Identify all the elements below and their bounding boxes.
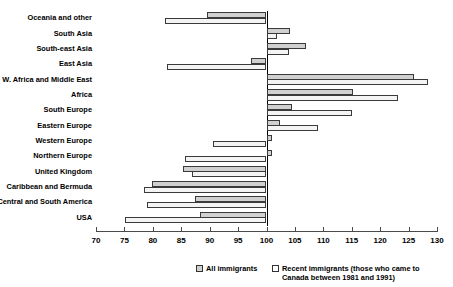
category-label: Oceania and other — [28, 14, 92, 22]
category-label: Caribbean and Bermuda — [7, 183, 92, 191]
x-tick — [352, 227, 353, 232]
x-tick-label: 110 — [308, 236, 338, 245]
category-label: Northern Europe — [33, 152, 92, 160]
bar-recent-immigrants — [267, 95, 399, 101]
x-tick — [181, 227, 182, 232]
category-label: East Asia — [59, 60, 92, 68]
x-tick-label: 70 — [81, 236, 111, 245]
x-tick — [124, 227, 125, 232]
legend-item-all-immigrants: All immigrants — [196, 264, 257, 273]
category-label: South Asia — [54, 30, 92, 38]
bar-recent-immigrants — [167, 64, 266, 70]
category-axis-labels: Oceania and otherSouth AsiaSouth-east As… — [0, 11, 92, 226]
x-tick-label: 100 — [252, 236, 282, 245]
bar-recent-immigrants — [267, 110, 353, 116]
x-tick — [210, 227, 211, 232]
chart-legend: All immigrants Recent immigrants (those … — [0, 262, 453, 287]
category-label: Africa — [71, 91, 92, 99]
x-tick-label: 130 — [422, 236, 452, 245]
x-tick-label: 80 — [138, 236, 168, 245]
category-label: Central and South America — [0, 198, 92, 206]
bar-recent-immigrants — [267, 79, 428, 85]
bar-all-immigrants — [267, 150, 272, 156]
x-tick — [238, 227, 239, 232]
category-label: Eastern Europe — [37, 122, 92, 130]
bar-recent-immigrants — [185, 156, 266, 162]
bar-recent-immigrants — [213, 141, 266, 147]
x-tick-label: 95 — [223, 236, 253, 245]
bar-chart: Oceania and otherSouth AsiaSouth-east As… — [0, 0, 453, 287]
category-label: USA — [76, 214, 92, 222]
bar-recent-immigrants — [147, 202, 266, 208]
x-tick — [380, 227, 381, 232]
category-label: Western Europe — [35, 137, 92, 145]
category-label: South-east Asia — [36, 45, 92, 53]
x-tick — [267, 227, 268, 232]
x-tick — [437, 227, 438, 232]
x-tick — [96, 227, 97, 232]
x-tick-label: 90 — [195, 236, 225, 245]
x-tick-label: 105 — [280, 236, 310, 245]
bar-recent-immigrants — [267, 125, 318, 131]
legend-label-all: All immigrants — [206, 264, 257, 273]
bar-recent-immigrants — [125, 217, 267, 223]
bar-recent-immigrants — [267, 49, 290, 55]
x-tick — [409, 227, 410, 232]
legend-swatch-recent-icon — [272, 265, 279, 272]
x-tick-label: 115 — [337, 236, 367, 245]
x-tick-label: 85 — [166, 236, 196, 245]
bar-recent-immigrants — [165, 18, 267, 24]
legend-swatch-all-icon — [196, 265, 203, 272]
bar-recent-immigrants — [267, 33, 277, 39]
x-tick — [323, 227, 324, 232]
x-tick-label: 125 — [394, 236, 424, 245]
category-label: South Europe — [44, 106, 92, 114]
legend-item-recent-immigrants: Recent immigrants (those who came to Can… — [272, 264, 420, 282]
x-tick — [153, 227, 154, 232]
x-tick-label: 75 — [109, 236, 139, 245]
plot-area — [96, 11, 437, 226]
bar-recent-immigrants — [192, 171, 266, 177]
category-label: United Kingdom — [35, 168, 92, 176]
bar-all-immigrants — [267, 135, 273, 141]
x-tick — [295, 227, 296, 232]
bar-recent-immigrants — [144, 187, 267, 193]
x-tick-label: 120 — [365, 236, 395, 245]
legend-label-recent: Recent immigrants (those who came to Can… — [282, 264, 420, 282]
category-label: W. Africa and Middle East — [2, 76, 92, 84]
